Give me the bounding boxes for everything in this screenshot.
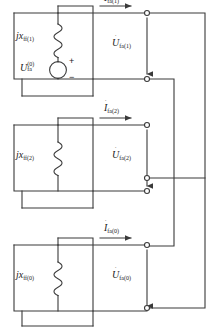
terminal-node-zero-top bbox=[145, 243, 150, 248]
source-plus-sign-positive: + bbox=[69, 56, 74, 66]
voltage-label-positive: ˙Ufa(1) bbox=[112, 38, 131, 48]
impedance-label-positive: jxff(1) bbox=[16, 31, 34, 41]
current-dot-zero: ˙ bbox=[105, 219, 107, 226]
voltage-subscript-zero: fa(0) bbox=[119, 275, 131, 281]
current-subscript-positive: fa(1) bbox=[107, 0, 119, 4]
negative-inner-right bbox=[58, 118, 93, 208]
source-subscript-positive: fa bbox=[27, 66, 32, 72]
voltage-source-circle-positive bbox=[50, 62, 67, 79]
voltage-dot-zero: ˙ bbox=[114, 266, 116, 273]
inductor-coil-zero bbox=[54, 262, 62, 296]
current-dot-negative: ˙ bbox=[105, 99, 107, 106]
outer-return-loop-negative bbox=[147, 79, 174, 246]
terminal-node-positive-bottom bbox=[145, 77, 150, 82]
current-subscript-negative: fa(2) bbox=[107, 108, 119, 114]
voltage-dot-negative: ˙ bbox=[114, 146, 116, 153]
terminal-node-zero-bottom bbox=[145, 306, 150, 311]
terminal-node-positive-top bbox=[145, 11, 150, 16]
current-label-negative: ˙Ifa(2) bbox=[104, 103, 119, 113]
current-label-positive: ˙Ifa(1) bbox=[104, 0, 119, 3]
circuit-schematic bbox=[0, 0, 213, 333]
voltage-label-negative: ˙Ufa(2) bbox=[112, 150, 131, 160]
positive-inner-right bbox=[58, 6, 93, 96]
voltage-dot-positive: ˙ bbox=[114, 34, 116, 41]
current-label-zero: ˙Ifa(0) bbox=[104, 223, 119, 233]
inductor-coil-positive bbox=[54, 24, 62, 58]
inductor-coil-negative bbox=[54, 142, 62, 176]
source-label-positive: U(0)fa bbox=[20, 63, 34, 73]
impedance-label-negative: jxff(2) bbox=[16, 150, 34, 160]
current-subscript-zero: fa(0) bbox=[107, 228, 119, 234]
impedance-subscript-positive: ff(1) bbox=[23, 36, 34, 42]
terminal-node-negative-bottom bbox=[145, 189, 150, 194]
outer-return-loop-zero bbox=[147, 13, 205, 308]
voltage-subscript-negative: fa(2) bbox=[119, 155, 131, 161]
circuit-diagram-canvas: jxff(1) U(0)fa + − ˙Ufa(1) ˙Ifa(1) jxff(… bbox=[0, 0, 213, 333]
impedance-subscript-zero: ff(0) bbox=[23, 275, 34, 281]
impedance-subscript-negative: ff(2) bbox=[23, 155, 34, 161]
voltage-subscript-positive: fa(1) bbox=[119, 43, 131, 49]
zero-inner-right bbox=[58, 238, 93, 326]
impedance-label-zero: jxff(0) bbox=[16, 270, 34, 280]
terminal-node-negative-mid bbox=[145, 176, 150, 181]
terminal-node-negative-top bbox=[145, 123, 150, 128]
source-minus-sign-positive: − bbox=[69, 72, 74, 82]
voltage-label-zero: ˙Ufa(0) bbox=[112, 270, 131, 280]
